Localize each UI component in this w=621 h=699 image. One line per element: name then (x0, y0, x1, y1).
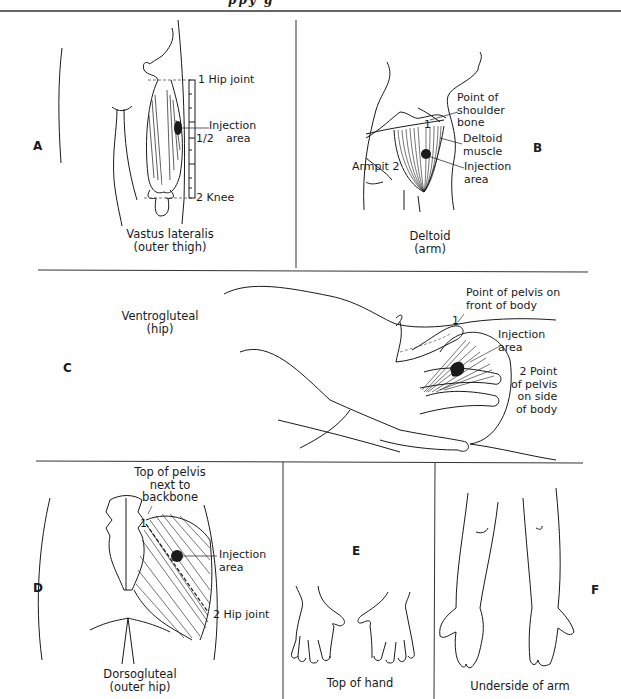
arms-illustration (0, 0, 621, 699)
panel-letter-f: F (591, 583, 599, 597)
caption-underside-of-arm: Underside of arm (455, 680, 585, 693)
